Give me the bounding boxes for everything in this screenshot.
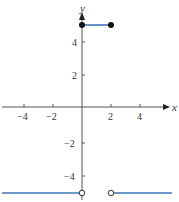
y-tick-label: 4 xyxy=(72,37,77,48)
x-axis-label: x xyxy=(171,101,177,113)
y-tick-label: −2 xyxy=(64,138,75,149)
closed-point xyxy=(79,22,85,28)
open-point xyxy=(79,190,85,196)
closed-point xyxy=(108,22,114,28)
x-tick-label: −2 xyxy=(46,111,57,122)
open-point xyxy=(108,190,114,196)
y-axis-label: y xyxy=(79,2,85,14)
y-tick-label: 2 xyxy=(72,70,77,81)
x-tick-label: 4 xyxy=(137,111,142,122)
x-tick-label: 2 xyxy=(108,111,113,122)
x-tick-label: −4 xyxy=(17,111,28,122)
step-function-chart: x y −4 −2 2 4 4 2 −2 −4 xyxy=(0,0,179,202)
x-axis-arrow-icon xyxy=(163,104,170,110)
y-tick-label: −4 xyxy=(64,171,75,182)
